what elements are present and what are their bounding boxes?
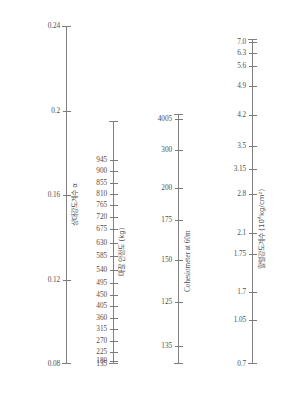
- scale-2-tick-label: 945: [96, 156, 107, 163]
- scale-2-top-cap: [109, 121, 118, 122]
- scale-2-tick: [110, 270, 118, 271]
- scale-2-tick: [110, 361, 118, 362]
- scale-3-tick: [175, 119, 183, 120]
- scale-4-tick: [249, 53, 257, 54]
- scale-2-tick-label: 900: [96, 168, 107, 175]
- scale-2-tick: [110, 306, 118, 307]
- scale-2-tick-label: 360: [96, 314, 107, 321]
- scale-3-axis-line: [178, 114, 179, 364]
- scale-2-tick: [110, 318, 118, 319]
- scale-2-tick: [110, 205, 118, 206]
- scale-1-top-cap: [62, 26, 71, 27]
- scale-1-tick-label: 0.08: [48, 360, 60, 367]
- scale-2-tick-label: 495: [96, 279, 107, 286]
- scale-4-tick-label: 7.0: [237, 38, 246, 45]
- scale-3-tick: [175, 260, 183, 261]
- scale-3-bottom-cap: [174, 363, 183, 364]
- scale-2-tick: [110, 341, 118, 342]
- scale-2-tick: [110, 217, 118, 218]
- scale-4-tick-label: 3.5: [237, 142, 246, 149]
- scale-4-tick-label: 2.8: [237, 190, 246, 197]
- scale-1-tick-label: 0.2: [51, 107, 60, 114]
- scale-2-tick-label: 270: [96, 337, 107, 344]
- scale-2-axis-title: 마찰 안정도 (kg): [119, 228, 126, 276]
- scale-1-axis-title: 상대강도계수 α: [72, 183, 79, 226]
- scale-2-tick: [110, 243, 118, 244]
- scale-1-tick-label: 0.24: [48, 22, 60, 29]
- scale-3-tick-label: 135: [161, 342, 172, 349]
- scale-4-tick: [249, 42, 257, 43]
- scale-4-tick-label: 1.7: [237, 288, 246, 295]
- scale-3-tick-label: 4005: [158, 115, 172, 122]
- scale-2-tick-label: 630: [96, 239, 107, 246]
- scale-2-axis: 945 900 855 810 765 720 675 630 585 540 …: [113, 121, 114, 364]
- scale-4-tick: [249, 146, 257, 147]
- scale-2-tick-label: 855: [96, 179, 107, 186]
- scale-2-tick: [110, 171, 118, 172]
- scale-4-tick: [249, 66, 257, 67]
- scale-3-tick: [175, 346, 183, 347]
- scale-3-tick-label: 175: [161, 216, 172, 223]
- scale-2-tick: [110, 194, 118, 195]
- scale-4-top-cap: [248, 39, 257, 40]
- scale-3-tick-label: 200: [161, 184, 172, 191]
- scale-4-tick: [249, 254, 257, 255]
- scale-1-tick-label: 0.12: [48, 276, 60, 283]
- scale-4-axis-line: [252, 39, 253, 364]
- scale-2-tick-label: 540: [96, 266, 107, 273]
- scale-1-bottom-cap: [62, 363, 71, 364]
- scale-2-tick-label: 405: [96, 302, 107, 309]
- scale-2-bottom-cap: [109, 363, 118, 364]
- scale-2-tick-label: 225: [96, 348, 107, 355]
- scale-4-tick: [249, 320, 257, 321]
- scale-4-axis-title-post: kg/cm²): [258, 189, 266, 216]
- scale-4-tick: [249, 292, 257, 293]
- scale-2-tick: [110, 183, 118, 184]
- scale-4-tick-label: 4.9: [237, 82, 246, 89]
- scale-2-tick: [110, 229, 118, 230]
- scale-4-tick: [249, 169, 257, 170]
- scale-4-tick: [249, 233, 257, 234]
- scale-4-tick: [249, 115, 257, 116]
- scale-2-tick: [110, 160, 118, 161]
- scale-1-tick: [63, 195, 71, 196]
- scale-4-tick-label: 2.1: [237, 229, 246, 236]
- scale-4-tick-label: 1.75: [234, 250, 246, 257]
- scale-2-tick-label: 765: [96, 202, 107, 209]
- scale-4-axis-title: 할렬강도계수 (104kg/cm²): [259, 189, 266, 269]
- scale-4-bottom-cap: [248, 363, 257, 364]
- scale-3-tick: [175, 150, 183, 151]
- scale-2-tick: [110, 352, 118, 353]
- scale-4-tick: [249, 86, 257, 87]
- scale-3-tick-label: 150: [161, 256, 172, 263]
- scale-4-tick-label: 5.6: [237, 62, 246, 69]
- scale-2-tick-label: 135: [96, 360, 107, 367]
- scale-2-tick-label: 315: [96, 325, 107, 332]
- scale-4-axis-title-exponent: 4: [256, 216, 262, 219]
- nomograph-chart: 0.24 0.2 0.16 0.12 0.08 상대강도계수 α 945 900…: [0, 0, 285, 418]
- scale-3-axis-title: Cohesiometer at 60m: [185, 231, 192, 292]
- scale-1-tick-label: 0.16: [48, 191, 60, 198]
- scale-4-tick-label: 1.05: [234, 316, 246, 323]
- scale-2-tick-label: 450: [96, 291, 107, 298]
- scale-4-axis-title-pre: 할렬강도계수 (10: [258, 219, 266, 269]
- scale-3-tick-label: 125: [161, 298, 172, 305]
- scale-3-tick: [175, 188, 183, 189]
- scale-3-axis: 4005 300 200 175 150 125 135 Cohesiomete…: [178, 114, 179, 364]
- scale-4-tick-label: 6.3: [237, 49, 246, 56]
- scale-2-tick-label: 675: [96, 225, 107, 232]
- scale-2-tick: [110, 295, 118, 296]
- scale-1-axis: 0.24 0.2 0.16 0.12 0.08 상대강도계수 α: [66, 26, 67, 364]
- scale-3-tick-label: 300: [161, 146, 172, 153]
- scale-2-tick: [110, 283, 118, 284]
- scale-2-tick-label: 720: [96, 213, 107, 220]
- scale-4-tick-label: 4.2: [237, 111, 246, 118]
- scale-4-tick-label: 0.7: [237, 360, 246, 367]
- scale-4-tick: [249, 194, 257, 195]
- scale-1-tick: [63, 280, 71, 281]
- scale-2-tick-label: 585: [96, 252, 107, 259]
- scale-3-top-cap: [174, 114, 183, 115]
- scale-2-tick: [110, 329, 118, 330]
- scale-2-tick-label: 810: [96, 190, 107, 197]
- scale-4-axis: 7.0 6.3 5.6 4.9 4.2 3.5 3.15 2.8 2.1 1.7…: [252, 39, 253, 364]
